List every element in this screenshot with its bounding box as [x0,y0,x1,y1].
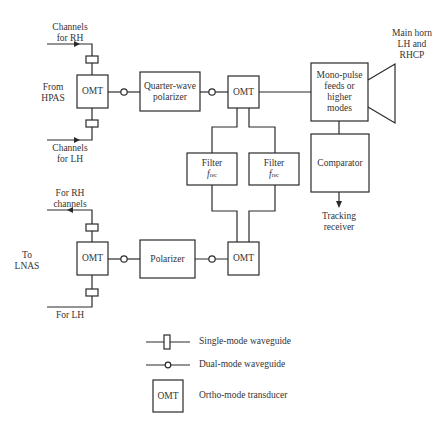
monopulse-line3: higher [327,92,351,103]
rh-output-line [47,210,92,242]
legend-dual-mode-label: Dual-mode waveguide [199,359,285,370]
legend-single-mode-icon [164,335,170,349]
tracking-line2: receiver [315,222,363,233]
single-mode-waveguide-icon [86,224,98,231]
horn-line1: Main horn [389,28,435,39]
tracking-line1: Tracking [315,211,363,222]
single-mode-waveguide-icon [86,289,98,296]
monopulse-feeds: Mono-pulse feeds or higher modes [311,63,368,121]
omt-top-left-label: OMT [82,86,103,97]
polarizer: Polarizer [140,240,195,278]
for-rh-line2: channels [50,199,90,210]
single-mode-waveguide-icon [86,56,98,63]
comparator: Comparator [311,134,369,192]
filter-left-freq: frec [207,169,217,181]
single-mode-waveguide-icon [86,120,98,127]
filter-right: Filter frec [249,153,299,185]
legend-omt-text: Ortho-mode transducer [199,390,287,400]
omt-bottom-right: OMT [228,242,259,275]
to-lnas-line2: LNAS [12,261,42,272]
filter-left: Filter frec [187,153,237,185]
omt-top-left: OMT [77,75,108,108]
legend-dual-mode-icon [165,362,171,368]
dual-mode-waveguide-icon [209,256,215,262]
for-rh-line1: For RH [50,188,90,199]
monopulse-line2: feeds or [324,81,354,92]
omt-top-right: OMT [228,76,259,108]
horn-shape [368,64,395,123]
lh-input-line [47,108,92,140]
omt-bottom-left-label: OMT [82,253,103,264]
legend-single-mode-text: Single-mode waveguide [199,336,291,346]
qwp-line2: polarizer [153,92,187,103]
main-horn-label: Main horn LH and RHCP [389,28,435,61]
from-hpas-line1: From [36,82,70,93]
rh-input-line [47,44,92,75]
legend-single-mode-label: Single-mode waveguide [199,336,291,347]
dual-mode-waveguide-icon [121,89,127,95]
channels-lh-label: Channels for LH [50,143,90,165]
omt-bottom-left: OMT [77,242,108,275]
legend-dual-mode-text: Dual-mode waveguide [199,359,285,369]
from-hpas-line2: HPAS [36,93,70,104]
channels-rh-line2: for RH [50,33,90,44]
arrow-down-icon [336,201,342,208]
channels-lh-line1: Channels [50,143,90,154]
legend-omt-label: Ortho-mode transducer [199,390,287,401]
comparator-label: Comparator [317,158,362,169]
for-lh-label: For LH [50,310,90,321]
lh-output-line [47,275,92,307]
freq-sub: rec [210,172,217,178]
monopulse-line4: modes [327,103,352,114]
filter-left-label: Filter [202,158,223,169]
channels-rh-label: Channels for RH [50,22,90,44]
for-lh-text: For LH [56,310,84,320]
horn-line2: LH and [389,39,435,50]
freq-sub: rec [272,172,279,178]
omt-bottom-right-label: OMT [233,253,254,264]
dual-mode-waveguide-icon [121,256,127,262]
qwp-line1: Quarter-wave [144,81,196,92]
filter-right-freq: frec [269,169,279,181]
legend-omt: OMT [153,380,183,412]
filter-right-label: Filter [264,158,285,169]
quarter-wave-polarizer: Quarter-wave polarizer [140,72,200,111]
channels-lh-line2: for LH [50,154,90,165]
from-hpas-label: From HPAS [36,82,70,104]
polarizer-label: Polarizer [150,254,184,265]
dual-mode-waveguide-icon [209,89,215,95]
monopulse-line1: Mono-pulse [317,70,363,81]
to-lnas-label: To LNAS [12,250,42,272]
channels-rh-line1: Channels [50,22,90,33]
to-lnas-line1: To [12,250,42,261]
legend-omt-box-label: OMT [157,391,178,402]
tracking-receiver-label: Tracking receiver [315,211,363,233]
for-rh-channels-label: For RH channels [50,188,90,210]
horn-line3: RHCP [389,50,435,61]
omt-top-right-label: OMT [233,87,254,98]
